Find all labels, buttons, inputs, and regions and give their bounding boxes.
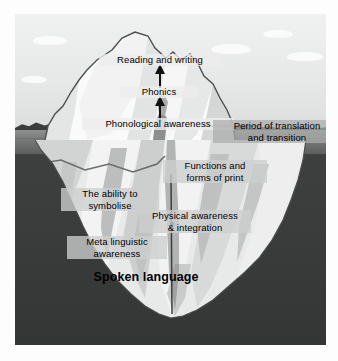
meta-line-1: Meta linguistic: [86, 236, 148, 247]
label-meta-linguistic-awareness: Meta linguistic awareness: [67, 236, 167, 259]
ability-line-1: The ability to: [82, 188, 137, 199]
period-line-2: and transition: [248, 132, 306, 143]
iceberg-diagram-figure: Reading and writing Phonics Phonological…: [0, 0, 338, 361]
label-spoken-language: Spoken language: [78, 272, 214, 284]
physical-line-2: & integration: [168, 222, 223, 233]
ability-line-2: symbolise: [88, 200, 131, 211]
scene-frame: Reading and writing Phonics Phonological…: [15, 14, 326, 345]
label-physical-awareness-and-integration: Physical awareness & integration: [139, 210, 251, 233]
functions-line-1: Functions and: [185, 160, 246, 171]
label-period-of-translation-and-transition: Period of translation and transition: [213, 120, 326, 143]
physical-line-1: Physical awareness: [152, 210, 238, 221]
label-phonological-awareness: Phonological awareness: [82, 118, 234, 130]
period-line-1: Period of translation: [234, 120, 321, 131]
label-functions-and-forms-of-print: Functions and forms of print: [163, 160, 267, 183]
label-phonics: Phonics: [120, 86, 198, 98]
meta-line-2: awareness: [94, 248, 141, 259]
label-reading-and-writing: Reading and writing: [99, 54, 221, 66]
functions-line-2: forms of print: [187, 172, 244, 183]
label-the-ability-to-symbolise: The ability to symbolise: [61, 188, 159, 211]
